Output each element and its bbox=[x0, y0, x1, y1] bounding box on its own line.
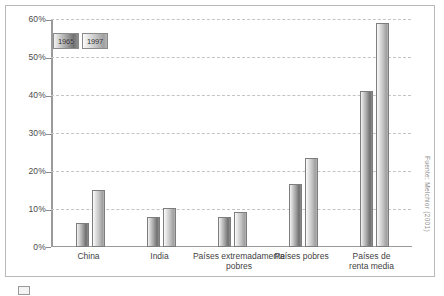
bar-1997-paises-pobres[interactable] bbox=[305, 158, 318, 247]
bar-1997-paises-de-renta-media[interactable] bbox=[376, 23, 389, 247]
category-label-paises-de-renta-media: Países de renta media bbox=[334, 251, 409, 271]
legend-label-1997: 1997 bbox=[87, 37, 103, 46]
corner-marker bbox=[18, 286, 30, 295]
bar-1997-india[interactable] bbox=[163, 208, 176, 247]
bar-1965-paises-pobres[interactable] bbox=[289, 184, 302, 247]
y-tick-label: 60% bbox=[28, 14, 46, 24]
bar-1965-china[interactable] bbox=[76, 223, 89, 247]
y-axis-labels: 60% 50% 40% 30% 20% 10% 0% bbox=[6, 19, 46, 247]
bar-1997-china[interactable] bbox=[92, 190, 105, 247]
y-tick-label: 20% bbox=[28, 166, 46, 176]
y-tick-label: 0% bbox=[33, 242, 46, 252]
bar-1965-paises-de-renta-media[interactable] bbox=[360, 91, 373, 247]
category-label-paises-pobres: Países pobres bbox=[264, 251, 339, 261]
legend: 1965 1997 bbox=[53, 33, 108, 49]
y-tick bbox=[46, 247, 51, 248]
bar-groups bbox=[51, 19, 412, 247]
bar-1965-india[interactable] bbox=[147, 217, 160, 247]
x-axis-labels: China India Países extremadamente pobres… bbox=[51, 251, 412, 281]
source-note: Fuente: Melchior (2001) bbox=[424, 156, 431, 232]
chart-frame: 60% 50% 40% 30% 20% 10% 0% bbox=[5, 5, 435, 277]
legend-label-1965: 1965 bbox=[58, 37, 74, 46]
y-tick-label: 40% bbox=[28, 90, 46, 100]
y-tick-label: 10% bbox=[28, 204, 46, 214]
legend-swatch-1965[interactable]: 1965 bbox=[53, 33, 79, 49]
y-tick-label: 50% bbox=[28, 52, 46, 62]
bar-1997-paises-extremadamente-pobres[interactable] bbox=[234, 212, 247, 247]
legend-swatch-1997[interactable]: 1997 bbox=[82, 33, 108, 49]
bar-1965-paises-extremadamente-pobres[interactable] bbox=[218, 217, 231, 247]
y-tick-label: 30% bbox=[28, 128, 46, 138]
category-label-china: China bbox=[51, 251, 126, 261]
chart-page: 60% 50% 40% 30% 20% 10% 0% bbox=[0, 0, 444, 296]
